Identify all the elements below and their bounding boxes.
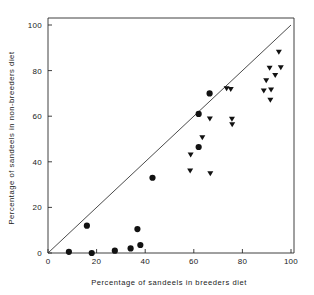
plot-box-outline (48, 18, 294, 253)
data-point-circle (112, 248, 118, 254)
y-tick-label: 60 (33, 112, 43, 121)
data-point-triangle (199, 135, 205, 140)
y-tick-label: 40 (33, 158, 43, 167)
data-point-triangle (268, 87, 274, 92)
data-point-circle (206, 90, 212, 96)
data-point-triangle (267, 66, 273, 71)
data-point-triangle (207, 171, 213, 176)
plot-canvas: 020406080100020406080100 Percentage of s… (0, 0, 314, 295)
x-tick-label: 20 (92, 257, 102, 266)
data-point-circle (66, 249, 72, 255)
data-point-circle (196, 111, 202, 117)
data-point-circle (84, 223, 90, 229)
reference-line (48, 25, 291, 253)
data-point-triangle (187, 168, 193, 173)
y-tick-label: 0 (37, 249, 42, 258)
data-point-circle (196, 144, 202, 150)
data-points (66, 50, 284, 256)
x-tick-label: 60 (189, 257, 199, 266)
data-point-circle (134, 226, 140, 232)
data-point-triangle (261, 89, 267, 94)
data-point-circle (128, 245, 134, 251)
x-tick-label: 0 (46, 257, 51, 266)
data-point-triangle (278, 65, 284, 70)
scatter-plot-figure: 020406080100020406080100 Percentage of s… (0, 0, 314, 295)
y-axis-title: Percentage of sandeels in non-breeders d… (7, 51, 16, 224)
data-point-circle (149, 175, 155, 181)
data-point-triangle (229, 117, 235, 122)
identity-reference-line (48, 25, 291, 253)
data-point-triangle (207, 116, 213, 121)
plot-frame (48, 18, 294, 253)
data-point-triangle (276, 50, 282, 55)
y-tick-label: 20 (33, 203, 43, 212)
y-tick-label: 80 (33, 67, 43, 76)
data-point-circle (89, 250, 95, 256)
series-filled-triangle-down (187, 50, 284, 176)
tick-labels: 020406080100020406080100 (28, 21, 299, 266)
x-tick-label: 100 (284, 257, 298, 266)
x-tick-label: 80 (238, 257, 248, 266)
data-point-circle (137, 242, 143, 248)
x-axis-title: Percentage of sandeels in breeders diet (91, 278, 247, 287)
axis-lines (48, 18, 294, 253)
data-point-triangle (267, 98, 273, 103)
data-point-triangle (188, 152, 194, 157)
y-tick-label: 100 (28, 21, 42, 30)
data-point-triangle (229, 122, 235, 127)
x-tick-label: 40 (140, 257, 150, 266)
data-point-triangle (272, 73, 278, 78)
series-filled-circle (66, 90, 213, 256)
data-point-triangle (228, 87, 234, 92)
data-point-triangle (263, 78, 269, 83)
